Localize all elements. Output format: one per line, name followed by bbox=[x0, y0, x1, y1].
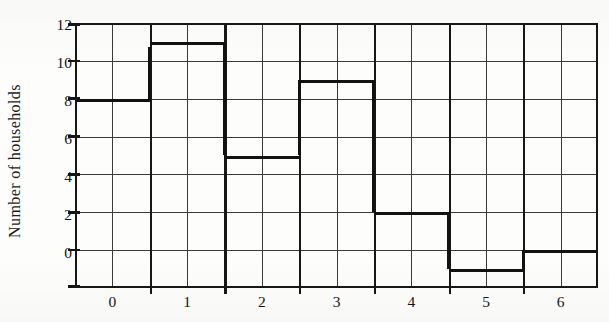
y-axis-title: Number of households bbox=[0, 0, 30, 322]
y-tick-label: 6 bbox=[44, 131, 72, 147]
y-tick-label: 0 bbox=[44, 245, 72, 261]
x-axis-tick-labels: 0 1 2 3 4 5 6 bbox=[0, 294, 609, 318]
y-tick-label: 2 bbox=[44, 207, 72, 223]
y-tick-label: 10 bbox=[44, 55, 72, 71]
y-tick-label: 4 bbox=[44, 169, 72, 185]
x-tick-label: 3 bbox=[322, 294, 352, 310]
y-tick-label: 8 bbox=[44, 93, 72, 109]
x-tick-label: 5 bbox=[471, 294, 501, 310]
x-tick-label: 6 bbox=[546, 294, 576, 310]
x-tick-label: 0 bbox=[97, 294, 127, 310]
plot-area bbox=[75, 23, 598, 288]
plot-frame bbox=[75, 23, 598, 288]
x-tick-label: 1 bbox=[172, 294, 202, 310]
x-tick-label: 2 bbox=[247, 294, 277, 310]
y-axis-tick-labels: 12 10 8 6 4 2 0 bbox=[36, 0, 72, 322]
x-tick-label: 4 bbox=[396, 294, 426, 310]
histogram-figure: Number of households 12 10 8 6 4 2 0 bbox=[0, 0, 609, 322]
